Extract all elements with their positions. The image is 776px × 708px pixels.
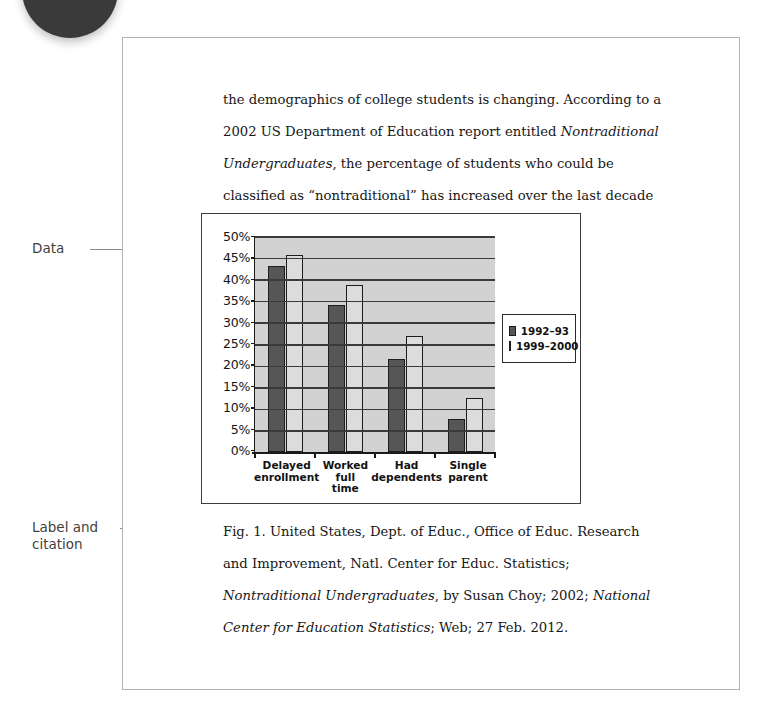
bar <box>448 419 465 452</box>
page-sheet: the demographics of college students is … <box>122 37 740 690</box>
x-axis-tick <box>254 452 256 458</box>
y-tick-label: 10% <box>223 403 250 413</box>
bar <box>268 266 285 452</box>
x-axis-tick <box>434 452 436 458</box>
caption-italic-title-1: Nontraditional Undergraduates <box>223 588 435 603</box>
gridline <box>255 366 495 368</box>
x-category-label: Workedfulltime <box>319 460 371 495</box>
legend-label: 1999–2000 <box>516 340 578 352</box>
body-line-1: the demographics of college students is … <box>223 92 661 107</box>
x-category-label: Haddependents <box>371 460 442 495</box>
decorative-circle <box>22 0 118 38</box>
y-tick-label: 0% <box>231 446 250 456</box>
y-tick-label: 20% <box>223 360 250 370</box>
legend-label: 1992–93 <box>521 325 569 337</box>
x-axis-tick <box>314 452 316 458</box>
caption-seg-3: , by Susan Choy; 2002; <box>435 588 593 603</box>
x-category-label-line: Had <box>371 460 442 472</box>
x-category-label-line: parent <box>442 472 494 484</box>
gridline <box>255 387 495 389</box>
annotation-data: Data <box>32 240 64 257</box>
legend-swatch-icon <box>509 341 511 351</box>
y-tick-label: 45% <box>223 253 250 263</box>
x-category-label-line: time <box>319 483 371 495</box>
x-category-label-line: dependents <box>371 472 442 484</box>
body-line-2-pre: 2002 US Department of Education report e… <box>223 124 561 139</box>
gridline <box>255 279 495 281</box>
figure-box: 50%45%40%35%30%25%20%15%10%5%0% Delayede… <box>201 213 581 504</box>
y-tick-label: 40% <box>223 275 250 285</box>
legend-swatch-icon <box>509 326 516 336</box>
y-tick-label: 25% <box>223 339 250 349</box>
gridline <box>255 236 495 238</box>
chart-legend: 1992–931999–2000 <box>502 314 576 363</box>
x-category-label-line: Worked <box>319 460 371 472</box>
x-category-label: Singleparent <box>442 460 494 495</box>
gridline <box>255 258 495 260</box>
body-line-3-italic-title: Undergraduates <box>223 156 332 171</box>
bar <box>286 255 303 452</box>
y-tick-label: 50% <box>223 232 250 242</box>
caption-seg-5: ; Web; 27 Feb. 2012. <box>430 620 568 635</box>
y-tick-label: 30% <box>223 318 250 328</box>
bar <box>388 359 405 452</box>
y-tick-label: 5% <box>231 425 250 435</box>
bar <box>466 398 483 452</box>
y-tick-label: 15% <box>223 382 250 392</box>
x-axis-category-labels: DelayedenrollmentWorkedfulltimeHaddepend… <box>254 460 494 495</box>
x-axis-tick <box>374 452 376 458</box>
x-category-label-line: Single <box>442 460 494 472</box>
caption-seg-1: Fig. 1. United States, Dept. of Educ., O… <box>223 524 640 571</box>
annotation-label-citation: Label and citation <box>32 519 98 553</box>
x-axis-tick <box>494 452 496 458</box>
gridline <box>255 322 495 324</box>
x-category-label: Delayedenrollment <box>254 460 319 495</box>
annotation-label-line2: citation <box>32 536 98 553</box>
gridline <box>255 430 495 432</box>
gridline <box>255 344 495 346</box>
plot-area <box>254 236 495 452</box>
legend-item: 1992–93 <box>509 325 569 337</box>
bar <box>406 336 423 452</box>
x-category-label-line: enrollment <box>254 472 319 484</box>
x-category-label-line: Delayed <box>254 460 319 472</box>
y-tick-label: 35% <box>223 296 250 306</box>
y-axis-tick-labels: 50%45%40%35%30%25%20%15%10%5%0% <box>206 232 250 456</box>
bar <box>346 285 363 452</box>
annotation-data-label: Data <box>32 240 64 256</box>
gridline <box>255 301 495 303</box>
gridline <box>255 409 495 411</box>
bar-chart: 50%45%40%35%30%25%20%15%10%5%0% Delayede… <box>202 214 580 503</box>
annotation-label-line1: Label and <box>32 519 98 536</box>
body-line-2-italic-title: Nontraditional <box>561 124 659 139</box>
legend-item: 1999–2000 <box>509 340 569 352</box>
figure-caption: Fig. 1. United States, Dept. of Educ., O… <box>223 516 668 644</box>
